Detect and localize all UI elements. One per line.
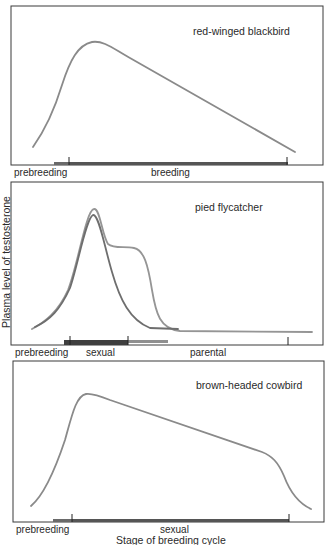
stage-label-sexual: sexual (86, 347, 115, 358)
panel-frame (11, 182, 323, 345)
x-axis-label: Stage of breeding cycle (116, 534, 226, 545)
stage-label-parental: parental (190, 347, 226, 358)
stage-bar-prebreeding (53, 519, 72, 522)
stage-bar-breeding (69, 162, 288, 165)
stage-label-prebreeding: prebreeding (16, 524, 69, 535)
y-axis-label: Plasma level of testosterone (0, 196, 12, 328)
testosterone-curve (33, 42, 295, 152)
stage-bar-sexual (72, 519, 289, 522)
stage-bar-extended-sexual (128, 340, 168, 343)
panel-brown-headed-cowbird: brown-headed cowbird prebreeding sexual (13, 361, 324, 535)
stage-label-prebreeding: prebreeding (14, 167, 67, 178)
stage-bar-sexual (64, 340, 128, 345)
panel-title: brown-headed cowbird (196, 379, 302, 391)
testosterone-curve (31, 394, 311, 509)
panel-pied-flycatcher: pied flycatcher prebreeding sexual paren… (11, 182, 323, 358)
testosterone-curve-extended (32, 209, 312, 332)
breeding-testosterone-figure: Plasma level of testosterone red-winged … (0, 0, 332, 545)
stage-bar-prebreeding (54, 162, 69, 165)
panel-title: pied flycatcher (195, 201, 263, 213)
panel-title: red-winged blackbird (193, 25, 290, 37)
stage-label-breeding: breeding (151, 167, 190, 178)
panel-red-winged-blackbird: red-winged blackbird prebreeding breedin… (11, 6, 323, 178)
stage-label-prebreeding: prebreeding (15, 347, 68, 358)
